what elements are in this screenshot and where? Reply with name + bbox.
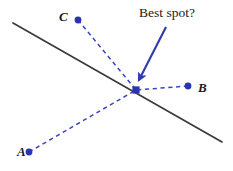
dashed-connector-b bbox=[136, 86, 188, 90]
point-label-b: B bbox=[198, 81, 207, 94]
point-label-c: C bbox=[59, 10, 68, 23]
best-spot-annotation-text: Best spot? bbox=[139, 6, 195, 20]
dashed-connector-a bbox=[29, 90, 136, 152]
point-c-dot bbox=[75, 17, 82, 24]
solid-line bbox=[13, 23, 222, 142]
best-spot-dot bbox=[132, 86, 139, 93]
callout-arrow bbox=[140, 27, 166, 78]
point-b-dot bbox=[185, 83, 192, 90]
dashed-connector-c bbox=[78, 20, 136, 90]
diagram-canvas: C B A Best spot? bbox=[0, 0, 233, 171]
point-label-a: A bbox=[17, 145, 26, 158]
point-a-dot bbox=[26, 149, 33, 156]
